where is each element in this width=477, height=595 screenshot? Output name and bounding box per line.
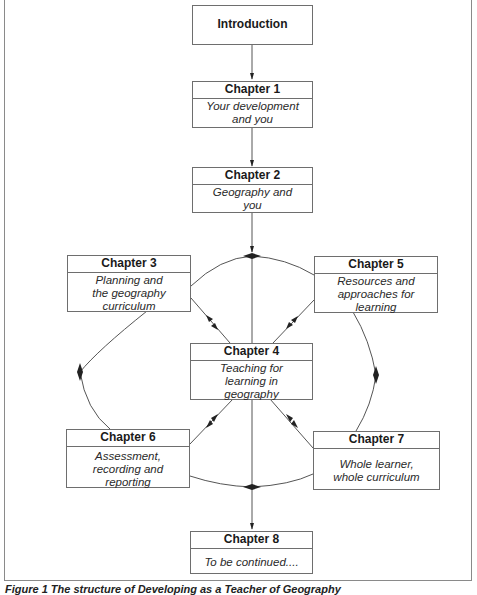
link-ch6-ch4 [190,399,233,444]
chapter-title: Resources and approaches for learning [315,274,437,314]
chapter-number: Chapter 4 [191,344,312,361]
chapter-1-box: Chapter 1 Your development and you [192,81,313,128]
arc-right [353,312,376,431]
chapter-title: Geography and you [193,185,312,212]
chapter-number: Chapter 2 [193,168,312,185]
chapter-title: Planning and the geography curriculum [68,273,190,313]
chapter-5-box: Chapter 5 Resources and approaches for l… [314,256,438,313]
chapter-number: Chapter 8 [191,532,312,549]
chapter-number: Chapter 1 [193,82,312,99]
chapter-number: Chapter 7 [314,432,439,449]
chapter-title: Assessment, recording and reporting [67,447,189,489]
chapter-title: Your development and you [193,99,312,126]
chapter-2-box: Chapter 2 Geography and you [192,167,313,213]
chapter-number: Chapter 6 [67,430,189,447]
chapter-number: Chapter 5 [315,257,437,274]
chapter-8-box: Chapter 8 To be continued.... [190,531,313,574]
chapter-4-box: Chapter 4 Teaching for learning in geogr… [190,343,313,400]
arc-left [80,311,147,429]
chapter-7-box: Chapter 7 Whole learner, whole curriculu… [313,431,440,490]
chapter-title: To be continued.... [191,549,312,569]
chapter-number: Chapter 3 [68,256,190,273]
figure-caption: Figure 1 The structure of Developing as … [5,583,341,595]
chapter-title: Whole learner, whole curriculum [314,449,439,484]
chapter-6-box: Chapter 6 Assessment, recording and repo… [66,429,190,488]
intro-title: Introduction [218,17,288,33]
chapter-3-box: Chapter 3 Planning and the geography cur… [67,255,191,312]
chapter-title: Teaching for learning in geography [191,361,312,401]
intro-box: Introduction [192,5,313,45]
